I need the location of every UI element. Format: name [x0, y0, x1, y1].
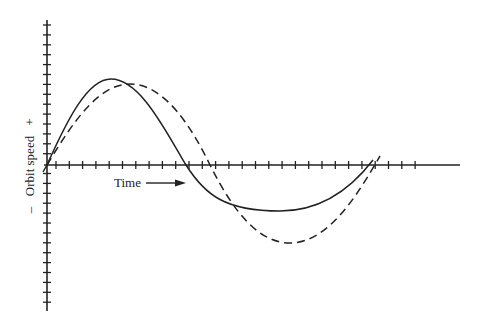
orbit-speed-diagram: Time Orbit speed + –	[0, 0, 482, 325]
time-label: Time	[114, 175, 141, 190]
dashed-speed-curve	[47, 84, 380, 243]
solid-speed-curve	[43, 79, 373, 211]
plus-marker: +	[22, 118, 37, 125]
minus-marker: –	[22, 206, 37, 214]
orbit-speed-label: Orbit speed	[22, 135, 37, 196]
time-arrow-icon	[175, 180, 186, 187]
